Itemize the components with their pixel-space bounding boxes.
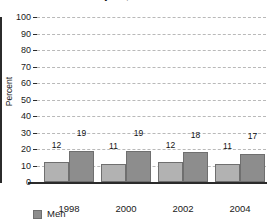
y-tick-label-0: 0 [26, 178, 31, 187]
y-tick-label-20: 20 [21, 145, 31, 154]
y-tick-label-40: 40 [21, 112, 31, 121]
bar-label-men-2004: 11 [215, 142, 241, 151]
bar-label-women-1998: 19 [69, 129, 95, 138]
plot-area: 100 90 80 70 60 50 40 30 [37, 17, 266, 182]
x-axis-line [28, 182, 267, 184]
bar-group-2004: 11 17 [215, 17, 265, 182]
bar-label-men-1998: 12 [44, 141, 70, 150]
bar-group-2000: 11 19 [101, 17, 151, 182]
y-tick-label-80: 80 [21, 46, 31, 55]
legend-swatch-men [33, 210, 42, 219]
chart-title: by Sex, 1998–2004 [0, 0, 272, 1]
y-axis-line [0, 17, 2, 183]
bar-men-2000[interactable] [101, 164, 126, 182]
bar-men-2004[interactable] [215, 164, 240, 182]
bar-chart: by Sex, 1998–2004 Percent 100 90 80 70 6… [0, 0, 272, 222]
bar-women-2002[interactable] [183, 152, 208, 182]
bar-women-1998[interactable] [69, 151, 94, 182]
y-tick-label-60: 60 [21, 79, 31, 88]
y-tick-label-30: 30 [21, 128, 31, 137]
y-tick-label-50: 50 [21, 95, 31, 104]
y-tick-label-10: 10 [21, 161, 31, 170]
bar-label-men-2002: 12 [158, 141, 184, 150]
bar-group-1998: 12 19 [44, 17, 94, 182]
bar-group-2002: 12 18 [158, 17, 208, 182]
y-tick-label-70: 70 [21, 62, 31, 71]
bar-label-women-2004: 17 [240, 132, 266, 141]
bar-label-men-2000: 11 [101, 142, 127, 151]
legend-label-men: Men [47, 209, 65, 219]
bar-men-2002[interactable] [158, 162, 183, 182]
bar-women-2004[interactable] [240, 154, 265, 182]
bar-label-women-2000: 19 [126, 129, 152, 138]
bar-women-2000[interactable] [126, 151, 151, 182]
bars-layer: 12 19 11 19 12 18 11 17 [37, 17, 266, 182]
bar-label-women-2002: 18 [183, 131, 209, 140]
chart-legend: Men [33, 209, 65, 219]
y-axis-title: Percent [5, 62, 14, 122]
bar-men-1998[interactable] [44, 162, 69, 182]
y-tick-label-100: 100 [16, 13, 31, 22]
y-tick-label-90: 90 [21, 29, 31, 38]
x-tick-label-2004: 2004 [205, 204, 272, 214]
